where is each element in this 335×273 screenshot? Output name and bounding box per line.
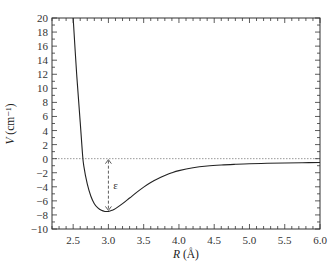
y-tick-label: 20 [37, 12, 49, 24]
y-tick-label: 8 [43, 96, 49, 108]
y-tick-label: −2 [36, 167, 48, 179]
x-tick-label: 5.5 [278, 234, 292, 246]
plot-border [52, 18, 320, 229]
x-tick-label: 5.0 [243, 234, 257, 246]
axis-ticks [52, 18, 320, 229]
potential-curve-line [73, 18, 320, 212]
plot-frame [52, 18, 320, 229]
y-tick-label: 6 [43, 110, 49, 122]
x-tick-label: 3.5 [137, 234, 151, 246]
x-tick-label: 4.5 [207, 234, 221, 246]
x-tick-label: 3.0 [102, 234, 116, 246]
x-axis-title: R (Å) [172, 247, 199, 261]
y-tick-label: −4 [36, 181, 48, 193]
y-tick-label: −10 [31, 223, 49, 235]
y-tick-label: 18 [37, 26, 49, 38]
well-depth-annotation: ε [105, 160, 118, 211]
y-tick-label: 4 [43, 125, 49, 137]
y-tick-label: 12 [37, 68, 48, 80]
x-tick-label: 4.0 [172, 234, 186, 246]
y-tick-label: −8 [36, 209, 48, 221]
y-tick-label: 0 [43, 153, 49, 165]
y-axis-title: V (cm⁻¹) [4, 103, 17, 144]
y-tick-label: 2 [43, 139, 49, 151]
potential-curve [73, 18, 320, 212]
y-tick-label: 14 [37, 54, 49, 66]
y-tick-label: 10 [37, 82, 49, 94]
potential-energy-chart: ε 2.53.03.54.04.55.05.56.0−10−8−6−4−2024… [0, 0, 335, 273]
epsilon-label: ε [113, 179, 118, 191]
y-tick-label: 16 [37, 40, 49, 52]
x-tick-label: 6.0 [313, 234, 327, 246]
x-tick-label: 2.5 [66, 234, 80, 246]
y-tick-label: −6 [36, 195, 48, 207]
